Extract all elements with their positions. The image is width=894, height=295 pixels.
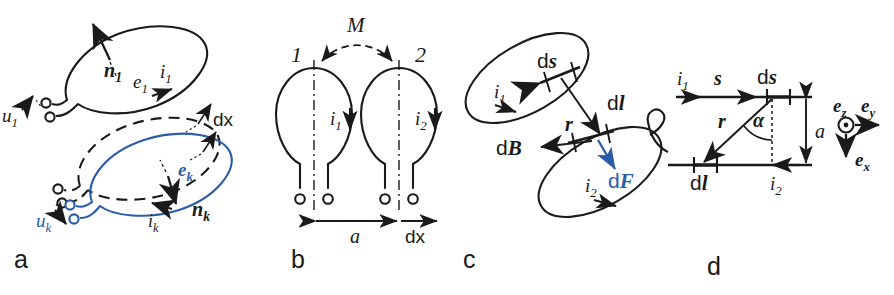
label-a-d: a xyxy=(815,120,825,142)
label-dl-c: dl xyxy=(607,91,625,115)
ez-dot-icon xyxy=(844,123,849,128)
panel-a: n1 e1 i1 u1 ek nk ik uk dx a xyxy=(2,24,234,273)
label-u1: u1 xyxy=(2,105,18,130)
label-n1: n1 xyxy=(104,59,122,85)
label-nk: nk xyxy=(192,198,210,224)
panel-letter-b: b xyxy=(291,245,305,273)
label-r-d: r xyxy=(718,110,726,132)
c-current-arrow-i1 xyxy=(495,105,516,112)
voltage-arrow-u1 xyxy=(22,96,33,110)
figure-canvas: n1 e1 i1 u1 ek nk ik uk dx a xyxy=(0,0,894,295)
label-i2-b: i2 xyxy=(415,108,427,133)
loop-1-outline xyxy=(41,26,207,121)
label-i1-c: i1 xyxy=(494,81,506,106)
displacement-arrow-dx-1 xyxy=(198,104,211,124)
normal-leader-nk xyxy=(160,160,166,172)
panel-letter-a: a xyxy=(14,245,28,273)
label-uk: uk xyxy=(36,210,52,235)
c-loop-1 xyxy=(451,15,603,142)
terminal-k-dashed-a xyxy=(53,184,62,193)
current-arrow-ik xyxy=(152,203,172,209)
panel-c: i1 i2 ds dl r dB dF c xyxy=(451,15,676,273)
label-e1: e1 xyxy=(133,71,148,96)
label-ez: ez xyxy=(833,95,846,120)
current-arrow-i1 xyxy=(152,89,172,96)
mutual-inductance-arc-left xyxy=(322,45,392,61)
terminal-1a xyxy=(41,98,50,107)
label-dx-a1: dx xyxy=(213,109,234,130)
displacement-leader-dx-1 xyxy=(186,126,196,132)
terminal-1b xyxy=(45,112,54,121)
coil-1-terminal-b xyxy=(323,194,333,204)
loop-k-dashed-outline xyxy=(53,118,219,208)
label-i2-d: i2 xyxy=(770,173,782,198)
label-M: M xyxy=(346,13,366,37)
coil-2-terminal-b xyxy=(408,194,418,204)
label-ey: ey xyxy=(861,95,875,120)
label-alpha-d: α xyxy=(753,109,765,131)
label-dl-d: dl xyxy=(690,171,708,195)
label-i1-b: i1 xyxy=(330,108,342,133)
displacement-leader-dx-2 xyxy=(190,154,201,160)
normal-arrow-n1 xyxy=(93,24,110,60)
label-ek: ek xyxy=(178,159,193,184)
label-dB-c: dB xyxy=(496,136,522,160)
panel-b: 1 2 M i1 i2 a dx b xyxy=(276,13,437,273)
panel-d: i1 s ds dl r α a i2 ez ey ex d xyxy=(648,65,879,280)
terminal-k-b xyxy=(69,214,78,223)
c-vector-dF xyxy=(598,140,615,169)
label-s-d: s xyxy=(713,67,722,89)
c-ds-tick-right xyxy=(571,62,577,82)
figure-root: n1 e1 i1 u1 ek nk ik uk dx a xyxy=(0,0,894,295)
label-coil-1: 1 xyxy=(291,42,302,67)
label-coil-2: 2 xyxy=(415,42,426,67)
terminal-k-a xyxy=(65,200,74,209)
normal-arrow-nk xyxy=(168,176,176,204)
panel-letter-c: c xyxy=(463,245,476,273)
label-i1-d: i1 xyxy=(677,68,689,93)
label-a-dim: a xyxy=(350,225,360,247)
label-i2-c: i2 xyxy=(585,175,597,200)
mutual-inductance-arc-right xyxy=(322,45,392,61)
label-ex: ex xyxy=(855,149,870,174)
coil-1 xyxy=(276,60,352,212)
c-loop-2 xyxy=(524,109,676,236)
coil-2 xyxy=(361,60,437,212)
label-ds-c: ds xyxy=(537,49,557,73)
d-loop-fragment xyxy=(648,110,668,152)
label-i1: i1 xyxy=(160,61,172,86)
coil-1-terminal-a xyxy=(295,194,305,204)
coil-2-terminal-a xyxy=(380,194,390,204)
label-dF-c: dF xyxy=(608,169,634,193)
voltage-arrow-uk xyxy=(55,210,66,224)
c-vector-dB xyxy=(541,141,592,147)
label-ds-d: ds xyxy=(757,65,777,89)
label-r-c: r xyxy=(565,113,573,135)
label-dx-b: dx xyxy=(405,226,426,247)
panel-letter-d: d xyxy=(707,252,721,280)
